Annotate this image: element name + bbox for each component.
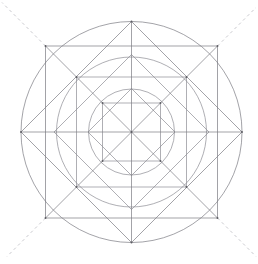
geometric-figure-root: [0, 0, 258, 264]
marker-top: [131, 21, 133, 23]
marker-in-sw: [102, 160, 104, 162]
marker-in-nw: [102, 102, 104, 104]
marker-corner-sw: [45, 217, 47, 219]
marker-center: [131, 131, 133, 133]
marker-mid-se: [186, 186, 188, 188]
marker-in-ne: [160, 102, 162, 104]
geometry-canvas: [0, 0, 258, 264]
marker-left: [20, 131, 22, 133]
marker-mid-ne: [186, 76, 188, 78]
marker-corner-nw: [45, 45, 47, 47]
marker-corner-ne: [217, 45, 219, 47]
marker-bottom: [131, 242, 133, 244]
marker-right: [241, 131, 243, 133]
marker-mid-nw: [76, 76, 78, 78]
marker-in-se: [160, 160, 162, 162]
marker-mid-sw: [76, 186, 78, 188]
marker-corner-se: [217, 217, 219, 219]
